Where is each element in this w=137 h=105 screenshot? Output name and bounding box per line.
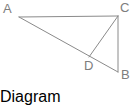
vertex-label-b: B [121, 68, 130, 81]
segment-AB [19, 17, 118, 72]
vertex-label-a: A [3, 2, 12, 15]
figure-canvas [0, 0, 137, 88]
vertex-label-d: D [84, 59, 93, 72]
segment-AC [19, 16, 118, 17]
segment-CD [89, 16, 118, 57]
vertex-label-c: C [120, 1, 129, 14]
geometry-figure: A C D B [0, 0, 137, 88]
